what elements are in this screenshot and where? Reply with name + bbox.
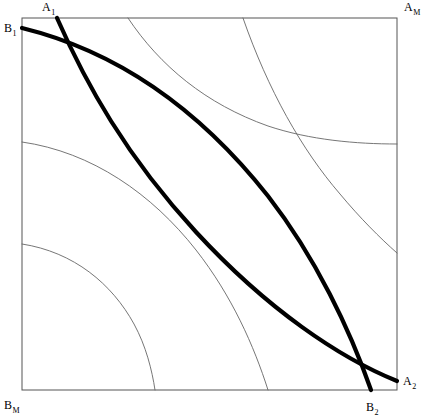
label-a1-sub: 1 <box>51 8 55 17</box>
thin-curve-lower-left-2 <box>22 244 155 390</box>
label-b2-sub: 2 <box>375 408 379 417</box>
label-bm: BM <box>4 399 20 414</box>
label-b1: B1 <box>4 22 16 37</box>
thin-curve-upper-right-2 <box>243 18 397 253</box>
label-b2-base: B <box>366 400 374 414</box>
label-a1: A1 <box>42 1 55 16</box>
label-am: AM <box>404 1 420 16</box>
label-a2-sub: 2 <box>412 382 416 391</box>
thick-curve-B1-B2 <box>22 28 371 390</box>
label-a2-base: A <box>403 374 412 388</box>
diagram-canvas <box>0 0 425 420</box>
label-a2: A2 <box>403 375 416 390</box>
label-bm-sub: M <box>13 406 20 415</box>
label-b2: B2 <box>366 401 378 416</box>
label-a1-base: A <box>42 0 51 14</box>
label-am-sub: M <box>413 8 420 17</box>
edgeworth-box-frame <box>22 18 397 390</box>
label-b1-sub: 1 <box>13 29 17 38</box>
thin-curve-upper-right-1 <box>128 18 397 144</box>
label-am-base: A <box>404 0 413 14</box>
label-bm-base: B <box>4 398 12 412</box>
edgeworth-box-figure: A1 AM B1 A2 B2 BM <box>0 0 425 420</box>
label-b1-base: B <box>4 21 12 35</box>
